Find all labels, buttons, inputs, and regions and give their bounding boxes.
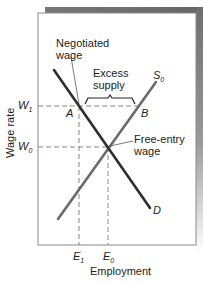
demand-label: D	[153, 204, 161, 216]
excess-label-2: supply	[93, 79, 125, 91]
point-b-label: B	[141, 107, 148, 119]
w0-label: W0	[18, 140, 32, 154]
y-axis-label: Wage rate	[4, 108, 16, 158]
w1-label: W1	[18, 99, 32, 113]
frame-shadow-right	[196, 7, 203, 252]
e1-label: E1	[73, 250, 84, 264]
e0-label: E0	[103, 250, 114, 264]
wage-diagram: Negotiated wage Excess supply Free-entry…	[0, 0, 204, 283]
free-entry-label-2: wage	[133, 145, 160, 157]
x-axis-label: Employment	[90, 265, 151, 277]
free-entry-label-1: Free-entry	[134, 133, 185, 145]
negotiated-label-1: Negotiated	[56, 37, 109, 49]
point-a-label: A	[65, 107, 73, 119]
negotiated-label-2: wage	[55, 49, 82, 61]
excess-label-1: Excess	[93, 67, 129, 79]
